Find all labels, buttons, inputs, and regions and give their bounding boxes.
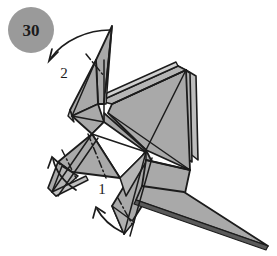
step-badge: 30	[8, 7, 54, 53]
fold-label-2: 2	[60, 65, 68, 81]
origami-step-diagram: 30 2 1	[0, 0, 277, 256]
origami-illustration: 30 2 1	[0, 0, 277, 256]
origami-model	[48, 26, 268, 250]
step-badge-number: 30	[23, 21, 40, 40]
fold-label-1: 1	[98, 181, 106, 197]
tail-long-point	[136, 186, 268, 246]
